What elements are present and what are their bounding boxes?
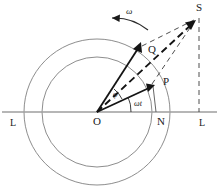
rotation-label-omega: ω xyxy=(126,7,132,16)
vector-OS xyxy=(97,24,192,112)
angle-arc-omega-t xyxy=(128,97,131,112)
construction-PS xyxy=(152,22,194,84)
axis-label-right-L: L xyxy=(199,118,205,128)
angle-label-omega-t: ωt xyxy=(134,100,142,108)
phasor-diagram-figure: O N P Q S L L φ ωt ω xyxy=(0,0,219,191)
point-label-N: N xyxy=(157,116,165,127)
point-label-P: P xyxy=(163,76,169,87)
angle-label-phi: φ xyxy=(113,91,117,99)
rotation-arrowhead-icon xyxy=(112,15,120,23)
axis-label-left-L: L xyxy=(10,118,16,128)
diagram-canvas xyxy=(0,0,219,191)
point-label-S: S xyxy=(196,2,202,13)
projection-PN xyxy=(153,86,156,112)
point-label-Q: Q xyxy=(148,44,156,55)
point-label-O: O xyxy=(93,116,101,127)
